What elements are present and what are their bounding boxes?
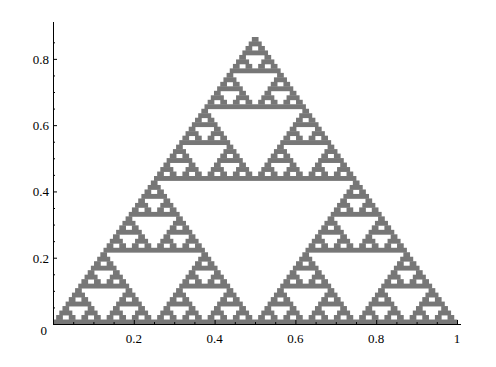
x-tick-label: 0.2	[126, 331, 142, 346]
sierpinski-plot: 0.20.40.60.810.20.40.60.80	[0, 0, 496, 367]
y-tick-label: 0.2	[33, 251, 49, 266]
x-tick-label: 0.8	[368, 331, 384, 346]
origin-label: 0	[41, 323, 48, 338]
y-tick-label: 0.8	[33, 52, 49, 67]
x-tick-label: 0.6	[287, 331, 304, 346]
y-tick-label: 0.4	[33, 184, 50, 199]
x-tick-label: 0.4	[206, 331, 223, 346]
x-tick-label: 1	[454, 331, 461, 346]
sierpinski-triangle	[53, 37, 457, 324]
y-tick-label: 0.6	[33, 118, 50, 133]
